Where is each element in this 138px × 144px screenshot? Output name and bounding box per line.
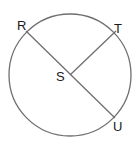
- label-U: U: [113, 119, 122, 134]
- label-T: T: [114, 21, 122, 36]
- circle-diagram: R T S U: [0, 0, 138, 144]
- radius-ST: [70, 31, 116, 75]
- label-R: R: [17, 18, 26, 33]
- label-S: S: [56, 69, 65, 84]
